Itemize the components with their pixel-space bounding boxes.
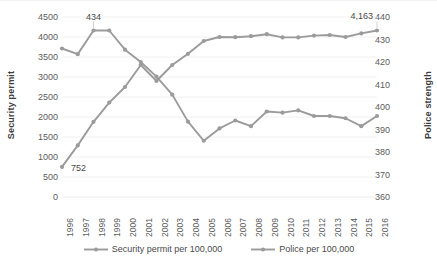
data-point (265, 109, 269, 113)
y-axis-left-tick-label: 0 (24, 192, 58, 202)
y-axis-left-ticks: 050010001500200025003000350040004500 (24, 0, 58, 271)
gridlines (62, 17, 377, 197)
data-point (186, 52, 190, 56)
x-axis-tick-label: 1996 (66, 218, 75, 237)
data-point (107, 28, 111, 32)
y-axis-left-tick-label: 3000 (24, 72, 58, 82)
y-axis-right-tick-label: 370 (375, 170, 409, 180)
y-axis-left-tick-label: 1500 (24, 132, 58, 142)
x-axis-tick-label: 2003 (176, 218, 185, 237)
x-axis-tick-label: 2000 (129, 218, 138, 237)
series-layer (60, 28, 379, 169)
data-point (139, 60, 143, 64)
data-point (76, 143, 80, 147)
data-point (123, 85, 127, 89)
data-point (375, 28, 379, 32)
data-point (60, 46, 64, 50)
data-point (217, 126, 221, 130)
y-axis-right-title: Police strength (423, 65, 433, 145)
y-axis-right-tick-label: 400 (375, 102, 409, 112)
data-label: 752 (71, 163, 86, 173)
data-point (359, 31, 363, 35)
legend-label: Security permit per 100,000 (112, 244, 223, 254)
series-1 (60, 28, 379, 169)
x-axis-tick-label: 2001 (145, 218, 154, 237)
x-axis-ticks: 1996199719981999200020012002200320042005… (62, 199, 377, 241)
y-axis-right-tick-label: 380 (375, 147, 409, 157)
data-point (296, 35, 300, 39)
x-axis-tick-label: 2006 (224, 218, 233, 237)
x-axis-tick-label: 2009 (271, 218, 280, 237)
y-axis-right-tick-label: 420 (375, 57, 409, 67)
y-axis-right-tick-label: 440 (375, 12, 409, 22)
y-axis-left-tick-label: 4500 (24, 12, 58, 22)
data-point (186, 120, 190, 124)
data-point (328, 114, 332, 118)
x-axis-tick-label: 1997 (82, 218, 91, 237)
data-point (76, 52, 80, 56)
data-point (202, 139, 206, 143)
data-point (123, 48, 127, 52)
x-axis-tick-label: 2008 (255, 218, 264, 237)
data-point (265, 32, 269, 36)
data-point (233, 118, 237, 122)
legend-label: Police per 100,000 (279, 244, 354, 254)
plot-area: 7524344,163 (62, 17, 377, 197)
data-point (343, 35, 347, 39)
data-point (312, 34, 316, 38)
y-axis-right-tick-label: 430 (375, 35, 409, 45)
chart-legend: Security permit per 100,000Police per 10… (0, 244, 437, 254)
data-label: 434 (86, 12, 101, 22)
y-axis-right-tick-label: 360 (375, 192, 409, 202)
x-axis-tick-label: 1999 (113, 218, 122, 237)
data-point (60, 165, 64, 169)
legend-marker-icon (250, 245, 276, 254)
data-point (249, 34, 253, 38)
y-axis-left-tick-label: 3500 (24, 52, 58, 62)
legend-item[interactable]: Police per 100,000 (250, 244, 354, 254)
x-axis-tick-label: 2013 (334, 218, 343, 237)
data-point (170, 63, 174, 67)
x-axis-tick-label: 2004 (192, 218, 201, 237)
y-axis-right-tick-label: 410 (375, 80, 409, 90)
data-point (359, 124, 363, 128)
x-axis-tick-label: 2005 (208, 218, 217, 237)
y-axis-left-tick-label: 4000 (24, 32, 58, 42)
y-axis-left-tick-label: 2000 (24, 112, 58, 122)
data-point (375, 114, 379, 118)
line-chart: Security permit Police strength 05001000… (0, 0, 437, 271)
y-axis-left-tick-label: 1000 (24, 152, 58, 162)
data-point (170, 93, 174, 97)
y-axis-left-tick-label: 2500 (24, 92, 58, 102)
data-label: 4,163 (350, 11, 373, 21)
data-point (154, 75, 158, 79)
top-edge-artifact (0, 0, 437, 1)
series-line (62, 31, 377, 141)
y-axis-left-title: Security permit (6, 65, 16, 145)
data-point (91, 28, 95, 32)
data-point (343, 116, 347, 120)
x-axis-tick-label: 2002 (161, 218, 170, 237)
data-point (312, 114, 316, 118)
data-point (280, 111, 284, 115)
data-point (217, 35, 221, 39)
plot-svg: 7524344,163 (62, 17, 377, 197)
x-axis-tick-label: 2015 (365, 218, 374, 237)
series-line (62, 30, 377, 166)
series-2 (60, 28, 379, 142)
data-point (91, 120, 95, 124)
data-point (280, 35, 284, 39)
x-axis-tick-label: 2016 (381, 218, 390, 237)
x-axis-tick-label: 2007 (239, 218, 248, 237)
x-axis-tick-label: 2011 (302, 219, 311, 237)
x-axis-tick-label: 2012 (318, 218, 327, 237)
x-axis-tick-label: 1998 (98, 218, 107, 237)
data-point (328, 33, 332, 37)
x-axis-tick-label: 2010 (287, 218, 296, 237)
legend-marker-icon (83, 245, 109, 254)
y-axis-left-tick-label: 500 (24, 172, 58, 182)
legend-item[interactable]: Security permit per 100,000 (83, 244, 223, 254)
data-point (249, 124, 253, 128)
data-point (233, 35, 237, 39)
data-point (296, 108, 300, 112)
